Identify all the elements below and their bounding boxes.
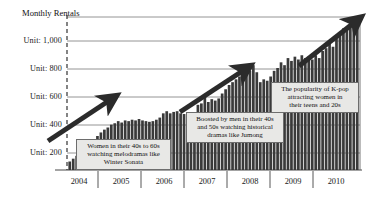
bar	[318, 58, 321, 170]
bar	[304, 58, 307, 170]
bar	[307, 57, 310, 170]
bar	[294, 57, 297, 170]
bar	[176, 111, 179, 170]
bar	[297, 60, 300, 171]
annotation-kpop: The popularity of K-pop attracting women…	[271, 82, 359, 113]
bar	[172, 112, 175, 170]
bar	[311, 60, 314, 171]
bar	[290, 61, 293, 170]
annotation-jumong: Boosted by men in their 40s and 50s watc…	[186, 112, 284, 143]
bar	[72, 159, 75, 170]
monthly-rentals-chart: Unit: 1,000 Unit: 800 Unit: 600 Unit: 40…	[0, 0, 371, 199]
bar	[179, 113, 182, 170]
annotation-winter-sonata: Women in their 40s to 60s watching melod…	[76, 139, 171, 170]
bar	[287, 58, 290, 170]
bar	[183, 114, 186, 170]
bar	[68, 162, 71, 171]
